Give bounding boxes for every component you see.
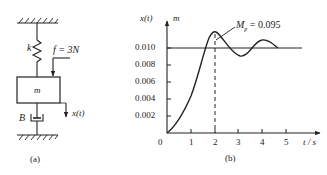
x-tick-label: 1 bbox=[189, 138, 194, 147]
top-ground-icon bbox=[17, 18, 58, 23]
origin-label: 0 bbox=[158, 138, 163, 147]
force-label: f = 3N bbox=[53, 45, 79, 55]
response-curve bbox=[167, 32, 278, 133]
peak-annotation-value: = 0.095 bbox=[247, 19, 280, 30]
displacement-arrow-icon bbox=[60, 103, 66, 117]
y-ticks bbox=[167, 48, 171, 116]
mass-label: m bbox=[34, 86, 41, 95]
panel-b-plot bbox=[167, 21, 320, 133]
damper-label: B bbox=[19, 113, 25, 123]
x-tick-label: 2 bbox=[213, 138, 218, 147]
y-unit-label: m bbox=[173, 14, 180, 23]
y-tick-label: 0.002 bbox=[135, 111, 155, 120]
x-axis-label: t / s bbox=[303, 138, 316, 147]
damper-icon bbox=[31, 103, 43, 135]
y-tick-label: 0.006 bbox=[135, 77, 155, 86]
x-ticks bbox=[191, 129, 286, 133]
x-tick-label: 3 bbox=[236, 138, 241, 147]
y-tick-label: 0.010 bbox=[135, 43, 155, 52]
force-arrow-icon bbox=[53, 58, 70, 76]
x-tick-label: 4 bbox=[260, 138, 265, 147]
panel-a-caption: (a) bbox=[30, 155, 40, 164]
y-tick-label: 0.004 bbox=[135, 94, 155, 103]
y-axis-label: x(t) bbox=[140, 14, 153, 23]
panel-b-caption: (b) bbox=[225, 154, 236, 163]
bottom-ground-icon bbox=[17, 135, 58, 140]
figure: k m B f = 3N x(t) (a) x(t) m Mp = 0.095 … bbox=[0, 0, 327, 175]
spring-label: k bbox=[27, 43, 31, 53]
displacement-label: x(t) bbox=[72, 109, 85, 118]
y-tick-label: 0.008 bbox=[135, 60, 155, 69]
peak-annotation: Mp = 0.095 bbox=[236, 20, 280, 32]
spring-icon bbox=[33, 23, 41, 77]
x-tick-label: 5 bbox=[284, 138, 289, 147]
